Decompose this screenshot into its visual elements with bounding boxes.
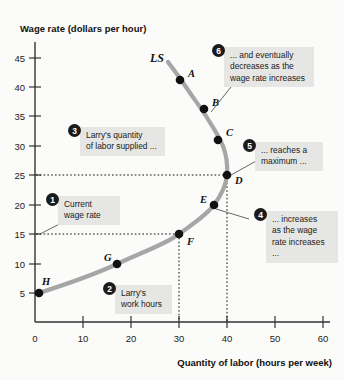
x-axis-title: Quantity of labor (hours per week)	[177, 357, 332, 368]
y-tick-label-30: 30	[14, 141, 25, 152]
point-label-G: G	[104, 252, 112, 263]
data-points	[35, 76, 232, 298]
point-label-A: A	[187, 68, 195, 79]
data-point-H	[35, 289, 44, 298]
labor-supply-curve	[39, 62, 227, 293]
x-tick-label-50: 50	[270, 333, 281, 344]
data-point-D	[223, 171, 232, 180]
point-label-H: H	[41, 276, 51, 287]
callout-badge-2: 2	[103, 282, 116, 295]
y-tick-label-40: 40	[14, 82, 25, 93]
callout-text-2: Larry's work hours	[115, 285, 172, 314]
y-tick-label-10: 10	[14, 259, 25, 270]
callout-text-4: ... increases as the wage rate increases…	[266, 211, 338, 263]
data-point-C	[214, 136, 223, 145]
x-tick-label-20: 20	[126, 333, 137, 344]
point-label-E: E	[199, 194, 207, 205]
point-label-C: C	[226, 127, 234, 138]
x-tick-label-10: 10	[78, 333, 89, 344]
point-label-F: F	[186, 236, 194, 247]
y-tick-label-20: 20	[14, 200, 25, 211]
callout-text-3: Larry's quantity of labor supplied ...	[80, 127, 165, 156]
data-point-A	[176, 76, 185, 85]
callout-badge-4: 4	[254, 208, 267, 221]
leader-line-4	[216, 209, 249, 219]
callout-text-6: ... and eventually decreases as the wage…	[224, 47, 314, 87]
data-point-G	[113, 260, 122, 269]
x-tick-label-40: 40	[222, 333, 233, 344]
x-tick-label-0: 0	[32, 333, 37, 344]
callout-text-5: ... reaches a maximum ...	[255, 142, 323, 171]
callout-text-1: Current wage rate	[58, 196, 120, 225]
y-tick-label-5: 5	[20, 288, 25, 299]
x-tick-label-30: 30	[174, 333, 185, 344]
y-axis-title: Wage rate (dollars per hour)	[20, 23, 146, 34]
callout-badge-3: 3	[68, 124, 81, 137]
callout-badge-1: 1	[46, 193, 59, 206]
y-tick-label-45: 45	[14, 53, 25, 64]
y-tick-label-25: 25	[14, 170, 25, 181]
callout-badge-5: 5	[243, 139, 256, 152]
y-tick-label-15: 15	[14, 229, 25, 240]
data-point-B	[200, 105, 209, 114]
y-tick-label-35: 35	[14, 111, 25, 122]
leader-line-5	[231, 160, 258, 175]
curve-label-ls: LS	[149, 51, 164, 65]
point-label-D: D	[234, 175, 243, 186]
x-tick-label-60: 60	[318, 333, 329, 344]
data-point-E	[210, 201, 219, 210]
figure-container: Wage rate (dollars per hour) 45 40 35 30…	[0, 0, 344, 380]
data-point-F	[175, 230, 184, 239]
callout-badge-6: 6	[212, 44, 225, 57]
